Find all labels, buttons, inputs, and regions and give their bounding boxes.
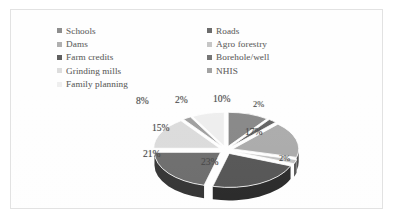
data-label-grinding-mills: 15% [152,122,170,133]
legend-item-agro-forestry[interactable]: Agro forestry [207,37,357,50]
data-label-farm-credits: 23% [201,156,219,167]
legend-swatch-grinding-mills [57,68,62,73]
legend-item-schools[interactable]: Schools [57,24,207,37]
data-label-schools: 10% [213,93,231,104]
legend-swatch-agro-forestry [207,42,212,47]
legend-label-nhis: NHIS [216,66,238,76]
legend-label-roads: Roads [216,26,239,36]
chart-legend: Schools Dams Farm credits Grinding mills… [57,24,357,91]
legend-label-family-planning: Family planning [66,79,128,89]
legend-swatch-roads [207,28,212,33]
legend-swatch-nhis [207,68,212,73]
chart-frame: Schools Dams Farm credits Grinding mills… [10,9,383,209]
legend-swatch-farm-credits [57,55,62,60]
data-label-borehole-well: 21% [143,148,161,159]
data-label-dams: 17% [245,126,263,137]
pie-top-faces [154,112,299,187]
legend-swatch-borehole-well [207,55,212,60]
legend-item-borehole-well[interactable]: Borehole/well [207,51,357,64]
data-label-agro-forestry: 2% [279,154,290,163]
legend-label-borehole-well: Borehole/well [216,52,269,62]
legend-item-farm-credits[interactable]: Farm credits [57,51,207,64]
legend-label-schools: Schools [66,26,96,36]
legend-item-nhis[interactable]: NHIS [207,64,357,77]
legend-swatch-family-planning [57,82,62,87]
legend-item-family-planning[interactable]: Family planning [57,78,207,91]
legend-label-grinding-mills: Grinding mills [66,66,121,76]
data-label-roads: 2% [253,100,264,109]
legend-item-grinding-mills[interactable]: Grinding mills [57,64,207,77]
legend-item-roads[interactable]: Roads [207,24,357,37]
legend-label-agro-forestry: Agro forestry [216,39,267,49]
legend-swatch-dams [57,42,62,47]
data-label-family-planning: 8% [136,95,149,106]
legend-label-dams: Dams [66,39,88,49]
legend-label-farm-credits: Farm credits [66,52,113,62]
pie-chart: 8% 2% 10% 2% 15% 17% 21% 23% 2% [131,96,321,216]
legend-item-dams[interactable]: Dams [57,37,207,50]
legend-swatch-schools [57,28,62,33]
data-label-nhis: 2% [175,94,188,105]
